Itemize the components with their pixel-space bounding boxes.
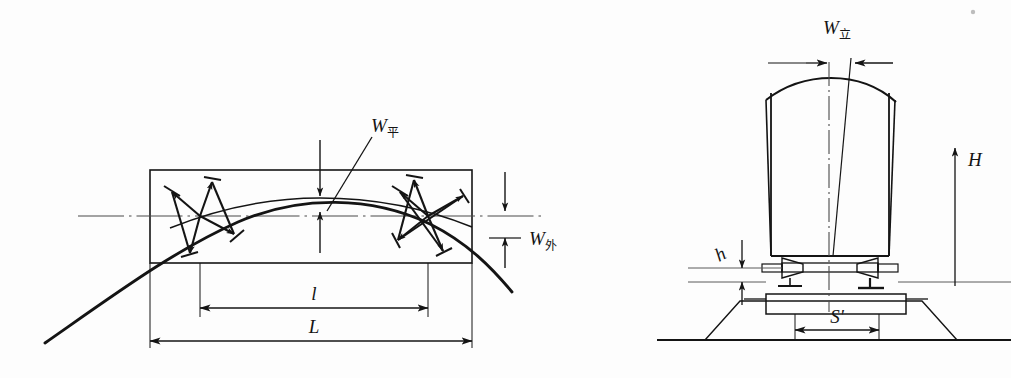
h-vertical-arrow: h — [711, 240, 742, 305]
label-w-li: W 立 — [823, 17, 851, 42]
track-curve — [45, 202, 512, 343]
arched-roof — [766, 78, 896, 102]
figure-root: W 平 W 外 l — [0, 0, 1011, 378]
dimension-L-long: L — [150, 263, 472, 348]
label-h: h — [711, 243, 729, 266]
label-w-ping-sub: 平 — [387, 126, 399, 140]
w-wai-offset-arrows — [489, 172, 521, 268]
scan-speck — [971, 10, 975, 14]
label-w-wai: W 外 — [529, 228, 557, 253]
technical-drawing-canvas: W 平 W 外 l — [0, 0, 1011, 378]
right-diagram-group: S' — [657, 10, 1011, 340]
label-S-prime: S' — [830, 306, 845, 327]
label-l: l — [311, 283, 316, 304]
bogie-beam — [782, 263, 878, 272]
label-H: H — [967, 149, 983, 170]
survey-star-marker-left — [164, 177, 244, 257]
left-diagram-group: W 平 W 外 l — [45, 115, 557, 348]
tilted-body-axis — [833, 58, 851, 256]
label-w-ping: W 平 — [371, 115, 399, 140]
S-gauge-arrows: S' — [795, 306, 879, 330]
H-vertical-arrow: H — [955, 148, 983, 286]
dimension-l-short: l — [200, 263, 428, 317]
vehicle-body-outline — [771, 93, 889, 256]
bogie-suspension-assembly — [688, 258, 1011, 288]
label-w-wai-sub: 外 — [545, 239, 557, 253]
label-L: L — [308, 316, 320, 337]
cone-spring-right — [857, 258, 898, 288]
label-w-li-sub: 立 — [839, 27, 851, 42]
